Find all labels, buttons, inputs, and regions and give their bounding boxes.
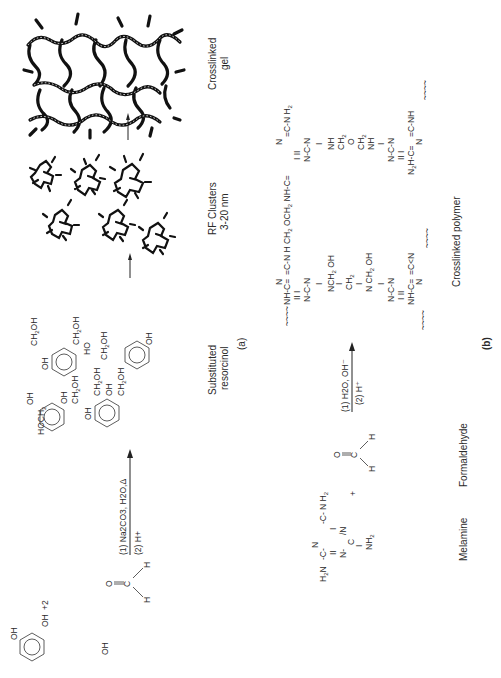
svg-text:~~~~: ~~~~ (418, 310, 428, 330)
formaldehyde-structure-a: O C H H (104, 562, 152, 603)
svg-text:(1) Na2CO3, H2O,Δ: (1) Na2CO3, H2O,Δ (118, 479, 128, 555)
svg-text:CH2OH: CH2OH (29, 318, 40, 346)
panel-a-label: (a) (236, 338, 247, 350)
svg-text:I: I (314, 283, 324, 285)
svg-text:NH2: NH2 (364, 534, 375, 550)
svg-text:N: N (274, 279, 284, 285)
svg-text:HOCH2: HOCH2 (36, 406, 47, 435)
svg-text:H: H (142, 562, 152, 568)
svg-text:N: N (414, 139, 424, 145)
svg-text:C: C (346, 539, 356, 545)
substituted-resorcinol-structures: HOCH2 OH OH CH2OH OH CH2OH OH CH2OH OH C… (25, 317, 154, 435)
svg-text:(2) H⁺: (2) H⁺ (354, 381, 364, 405)
arrow-to-gel (126, 113, 130, 140)
svg-text:H: H (367, 434, 377, 440)
svg-text:I: I (314, 143, 324, 145)
svg-text:OH: OH (59, 391, 69, 404)
svg-text:=C-NH: =C-NH (406, 111, 416, 137)
svg-text:N-C-N: N-C-N (386, 138, 396, 162)
svg-text:OH: OH (83, 407, 93, 420)
svg-text:I: I (376, 143, 386, 145)
svg-text:N: N (310, 542, 320, 548)
svg-text:II I: II I (396, 151, 406, 160)
crosslinked-gel-illustration (24, 14, 184, 138)
crosslinked-gel-label-2: gel (219, 57, 230, 70)
svg-text:NH: NH (366, 138, 376, 150)
svg-text:N CH2 OH: N CH2 OH (364, 253, 375, 292)
svg-text:N H2: N H2 (318, 491, 329, 510)
svg-text:-C-: -C- (318, 512, 328, 524)
svg-text:II: II (328, 550, 338, 555)
svg-text:=C-N H2: =C-N H2 (282, 104, 293, 137)
svg-text:N-C-N: N-C-N (302, 138, 312, 162)
reaction-arrow-b: (1) H2O, OH⁻ (2) H⁺ (340, 342, 364, 412)
panel-b-label: (b) (481, 337, 492, 350)
svg-text:I: I (354, 545, 364, 547)
svg-text:N-C-N: N-C-N (386, 278, 396, 302)
svg-text:OH: OH (25, 392, 35, 405)
arrow-to-clusters (128, 253, 132, 278)
rf-clusters-label-2: 3-20 nm (219, 193, 230, 230)
svg-text:N-: N- (338, 549, 348, 558)
svg-text:N: N (274, 139, 284, 145)
svg-text:I: I (334, 283, 344, 285)
svg-text:I II: I II (292, 151, 302, 160)
reaction-arrow-a: (1) Na2CO3, H2O,Δ (2) H+ (118, 449, 143, 555)
svg-text:NCH2 OH: NCH2 OH (326, 255, 337, 292)
substituted-resorcinol-label-2: resorcinol (219, 347, 230, 390)
svg-text:=C-N H CH2 OCH2 NH-C=: =C-N H CH2 OCH2 NH-C= (282, 175, 293, 275)
svg-text:CH2OH: CH2OH (70, 376, 81, 404)
rf-clusters-illustration (30, 154, 175, 254)
svg-text:OH: OH (40, 357, 50, 370)
svg-text:CH2OH: CH2OH (99, 332, 110, 360)
resorcinol-oh-top: OH (9, 627, 19, 640)
svg-text:H: H (142, 597, 152, 603)
resorcinol-structure: OH (20, 633, 110, 661)
svg-text:I II: I II (396, 291, 406, 300)
svg-text:O: O (332, 451, 342, 458)
svg-text:O: O (346, 138, 356, 145)
melamine-structure: H2N N -C- -C- N H2 II I N- /N C I NH2 (310, 491, 375, 582)
svg-text:CH2OH: CH2OH (71, 317, 82, 345)
svg-text:-C-: -C- (318, 548, 328, 560)
svg-text:(2) H+: (2) H+ (133, 531, 143, 555)
formaldehyde-label: Formaldehyde (458, 423, 469, 487)
svg-text:O: O (104, 580, 114, 587)
svg-text:C: C (122, 581, 132, 587)
svg-text:N-C-N: N-C-N (302, 278, 312, 302)
svg-text:/N: /N (338, 527, 348, 536)
svg-text:CH2OH: CH2OH (116, 368, 127, 396)
figure-canvas: OH OH OH +2 O C H H (1) Na2CO3, H2O,Δ (2… (0, 0, 501, 678)
svg-text:CH2: CH2 (344, 274, 355, 290)
svg-text:CH2OH: CH2OH (92, 368, 103, 396)
crosslinked-gel-label-1: Crosslinked (207, 38, 218, 90)
svg-text:OH: OH (104, 383, 114, 396)
substituted-resorcinol-label-1: Substituted (207, 345, 218, 395)
svg-text:H: H (367, 466, 377, 472)
crosslinked-polymer-label: Crosslinked polymer (451, 196, 462, 287)
melamine-plus: + (348, 491, 358, 496)
svg-text:=C<N: =C<N (406, 253, 416, 275)
svg-text:II I: II I (292, 291, 302, 300)
svg-text:HO: HO (82, 342, 92, 355)
formaldehyde-structure-b: O C H H (332, 434, 377, 472)
rf-clusters-label-1: RF Clusters (207, 182, 218, 235)
crosslinked-polymer-structure: ~~~~ NH-C= N =C-N H CH2 OCH2 NH-C= N =C-… (274, 80, 432, 330)
svg-text:OH: OH (144, 332, 154, 345)
svg-text:NH: NH (326, 138, 336, 150)
svg-text:(1) H2O, OH⁻: (1) H2O, OH⁻ (340, 359, 350, 412)
svg-text:N2H-C=: N2H-C= (406, 145, 417, 175)
svg-text:~~~~: ~~~~ (420, 80, 430, 100)
svg-text:I: I (376, 283, 386, 285)
melamine-label: Melamine (458, 517, 469, 561)
svg-text:H2N: H2N (318, 566, 329, 582)
resorcinol-oh-bottom: OH (40, 614, 50, 627)
svg-text:C: C (349, 452, 359, 458)
svg-text:~~~~: ~~~~ (422, 228, 432, 248)
svg-text:I: I (354, 283, 364, 285)
svg-text:I: I (328, 528, 338, 530)
svg-text:N: N (414, 279, 424, 285)
svg-text:~~~~: ~~~~ (282, 306, 292, 326)
coefficient-plus2: +2 (40, 600, 50, 610)
svg-text:OH: OH (100, 642, 110, 655)
